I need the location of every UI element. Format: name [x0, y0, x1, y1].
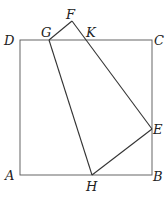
segment-h-g: [49, 40, 92, 175]
label-k: K: [85, 25, 97, 40]
label-g: G: [41, 25, 51, 40]
segment-g-f: [49, 21, 72, 40]
label-d: D: [3, 33, 15, 48]
label-a: A: [4, 168, 14, 183]
label-c: C: [154, 33, 164, 48]
label-e: E: [152, 122, 163, 137]
geometry-figure: D G F K C E A H B: [0, 0, 168, 197]
segment-e-h: [92, 129, 152, 175]
segment-f-e: [72, 21, 152, 129]
label-b: B: [152, 169, 163, 184]
label-h: H: [85, 179, 98, 194]
label-f: F: [65, 7, 76, 22]
